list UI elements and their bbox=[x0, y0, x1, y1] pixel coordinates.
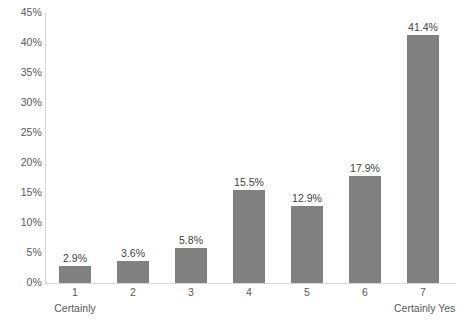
plot-area: 2.9%3.6%5.8%15.5%12.9%17.9%41.4% bbox=[46, 13, 456, 283]
y-tick-label: 40% bbox=[2, 37, 42, 48]
x-tick-label: 4 bbox=[220, 286, 278, 299]
y-tick-label: 5% bbox=[2, 247, 42, 258]
bar-group: 2.9% bbox=[46, 13, 104, 283]
x-tick-group: 4 bbox=[220, 286, 278, 299]
y-tick-label: 25% bbox=[2, 127, 42, 138]
bar[interactable] bbox=[291, 206, 323, 283]
bar[interactable] bbox=[59, 266, 91, 283]
x-tick-label: 6 bbox=[336, 286, 394, 299]
bar-group: 3.6% bbox=[104, 13, 162, 283]
x-tick-group: 6 bbox=[336, 286, 394, 299]
bar[interactable] bbox=[407, 35, 439, 283]
bar-chart: 45%40%35%30%25%20%15%10%5%0% 2.9%3.6%5.8… bbox=[0, 0, 461, 329]
x-axis-line bbox=[45, 283, 456, 284]
bar-value-label: 5.8% bbox=[156, 234, 226, 246]
bar-group: 15.5% bbox=[220, 13, 278, 283]
x-tick-group: 1Certainly bbox=[46, 286, 104, 315]
y-tick-label: 15% bbox=[2, 187, 42, 198]
y-axis: 45%40%35%30%25%20%15%10%5%0% bbox=[0, 0, 42, 329]
x-category-sub-label: Certainly Yes bbox=[394, 301, 452, 315]
y-tick-label: 0% bbox=[2, 277, 42, 288]
x-tick-group: 3 bbox=[162, 286, 220, 299]
y-tick-label: 35% bbox=[2, 67, 42, 78]
bar-group: 41.4% bbox=[394, 13, 452, 283]
y-tick-label: 20% bbox=[2, 157, 42, 168]
bar[interactable] bbox=[233, 190, 265, 283]
bar-value-label: 12.9% bbox=[272, 192, 342, 204]
bar-value-label: 41.4% bbox=[388, 21, 458, 33]
bar[interactable] bbox=[175, 248, 207, 283]
x-tick-group: 7Certainly Yes bbox=[394, 286, 452, 315]
bar-value-label: 15.5% bbox=[214, 176, 284, 188]
x-tick-label: 2 bbox=[104, 286, 162, 299]
y-tick-label: 45% bbox=[2, 7, 42, 18]
bar-value-label: 3.6% bbox=[98, 247, 168, 259]
x-tick-label: 1 bbox=[46, 286, 104, 299]
bar-group: 12.9% bbox=[278, 13, 336, 283]
y-tick-label: 30% bbox=[2, 97, 42, 108]
x-tick-label: 3 bbox=[162, 286, 220, 299]
x-category-sub-label: Certainly bbox=[46, 301, 104, 315]
x-axis: 1Certainly234567Certainly Yes bbox=[46, 286, 456, 326]
bar[interactable] bbox=[349, 176, 381, 283]
x-tick-label: 7 bbox=[394, 286, 452, 299]
bar-group: 5.8% bbox=[162, 13, 220, 283]
bar[interactable] bbox=[117, 261, 149, 283]
x-tick-group: 2 bbox=[104, 286, 162, 299]
bar-group: 17.9% bbox=[336, 13, 394, 283]
x-tick-label: 5 bbox=[278, 286, 336, 299]
bar-value-label: 17.9% bbox=[330, 162, 400, 174]
y-tick-label: 10% bbox=[2, 217, 42, 228]
x-tick-group: 5 bbox=[278, 286, 336, 299]
